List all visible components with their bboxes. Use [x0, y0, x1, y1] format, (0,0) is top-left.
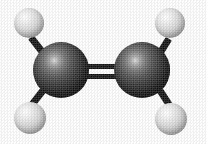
atom-carbon-left — [33, 42, 89, 98]
molecule-diagram — [0, 0, 206, 144]
atom-hydrogen-bottom-right — [155, 103, 187, 135]
atom-carbon-right — [114, 42, 170, 98]
atom-hydrogen-top-left — [14, 8, 44, 38]
atom-hydrogen-bottom-left — [14, 102, 46, 134]
atom-hydrogen-top-right — [155, 8, 185, 38]
